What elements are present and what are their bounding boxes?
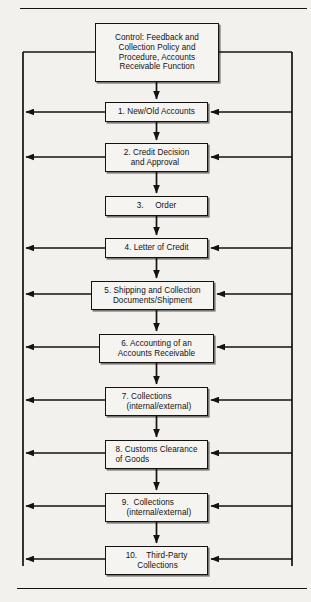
step-7-text: 7. Collections (internal/external) (122, 392, 191, 411)
step-9-line-1: 9. Collections (122, 498, 191, 508)
step-third-party-collections[interactable]: 10. Third-Party Collections (105, 546, 208, 575)
step-5-line-1: 5. Shipping and Collection (104, 286, 200, 296)
step-5-line-2: Documents/Shipment (104, 296, 200, 306)
control-line-3: Procedure, Accounts (115, 53, 199, 63)
step-4-line-1: 4. Letter of Credit (124, 243, 188, 253)
step-5-text: 5. Shipping and Collection Documents/Shi… (104, 286, 200, 305)
control-line-1: Control: Feedback and (115, 33, 199, 43)
step-2-line-1: 2. Credit Decision (124, 148, 190, 158)
flowchart-figure: Control: Feedback and Collection Policy … (0, 0, 311, 602)
step-shipping-and-collection-documents[interactable]: 5. Shipping and Collection Documents/Shi… (91, 281, 214, 310)
step-customs-clearance-of-goods[interactable]: 8. Customs Clearance of Goods (105, 440, 208, 469)
step-10-text: 10. Third-Party Collections (126, 551, 188, 570)
step-new-old-accounts[interactable]: 1. New/Old Accounts (105, 102, 208, 122)
step-3-line-1: 3. Order (137, 201, 177, 211)
control-feedback-box-text: Control: Feedback and Collection Policy … (115, 33, 199, 72)
step-credit-decision-and-approval[interactable]: 2. Credit Decision and Approval (105, 143, 208, 172)
step-8-line-2: of Goods (116, 455, 198, 465)
step-letter-of-credit[interactable]: 4. Letter of Credit (105, 238, 208, 258)
control-feedback-box[interactable]: Control: Feedback and Collection Policy … (95, 23, 219, 82)
control-line-2: Collection Policy and (115, 43, 199, 53)
step-6-line-1: 6. Accounting of an (118, 339, 195, 349)
step-accounting-of-an-accounts-receivable[interactable]: 6. Accounting of an Accounts Receivable (99, 334, 214, 363)
step-3-text: 3. Order (137, 201, 177, 211)
step-order[interactable]: 3. Order (105, 196, 208, 216)
step-10-line-2: Collections (126, 561, 188, 571)
step-10-line-1: 10. Third-Party (126, 551, 188, 561)
control-line-4: Receivable Function (115, 62, 199, 72)
step-9-text: 9. Collections (internal/external) (122, 498, 191, 517)
step-9-line-2: (internal/external) (122, 508, 191, 518)
step-1-text: 1. New/Old Accounts (118, 107, 195, 117)
step-6-text: 6. Accounting of an Accounts Receivable (118, 339, 195, 358)
step-7-line-1: 7. Collections (122, 392, 191, 402)
step-1-line-1: 1. New/Old Accounts (118, 107, 195, 117)
step-2-text: 2. Credit Decision and Approval (124, 148, 190, 167)
step-7-line-2: (internal/external) (122, 402, 191, 412)
step-collections-internal-external-9[interactable]: 9. Collections (internal/external) (105, 493, 208, 522)
step-8-text: 8. Customs Clearance of Goods (116, 445, 198, 464)
step-2-line-2: and Approval (124, 158, 190, 168)
step-6-line-2: Accounts Receivable (118, 349, 195, 359)
step-8-line-1: 8. Customs Clearance (116, 445, 198, 455)
step-collections-internal-external-7[interactable]: 7. Collections (internal/external) (105, 387, 208, 416)
step-4-text: 4. Letter of Credit (124, 243, 188, 253)
